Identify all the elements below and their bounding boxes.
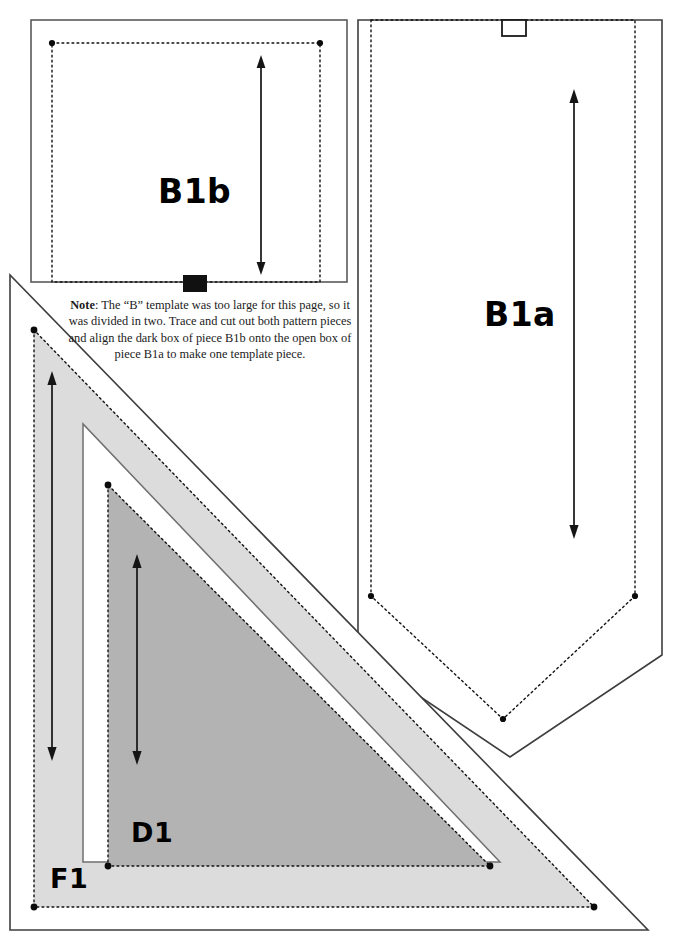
b1b-dark-alignment-box bbox=[183, 275, 207, 292]
piece-b1b-group bbox=[31, 20, 347, 292]
b1a-open-alignment-box bbox=[502, 20, 526, 36]
d1-corner-dot-bottom-left bbox=[105, 863, 112, 870]
b1b-cut-line bbox=[31, 20, 347, 282]
f1-corner-dot-bottom-right bbox=[591, 904, 598, 911]
b1a-cut-line bbox=[358, 20, 662, 757]
d1-corner-dot-bottom-right bbox=[487, 863, 494, 870]
pattern-geometry-layer bbox=[0, 0, 673, 941]
b1a-corner-dot-right bbox=[632, 593, 638, 599]
note-lead-word: Note bbox=[70, 298, 95, 312]
b1b-corner-dot-left bbox=[49, 40, 55, 46]
b1a-corner-dot-left bbox=[368, 593, 374, 599]
template-note: Note: The “B” template was too large for… bbox=[62, 297, 358, 362]
b1b-corner-dot-right bbox=[317, 40, 323, 46]
piece-label-b1b: B1b bbox=[158, 172, 231, 211]
note-body-text: The “B” template was too large for this … bbox=[69, 298, 352, 361]
piece-label-f1: F1 bbox=[50, 863, 88, 894]
b1a-corner-dot-point bbox=[500, 716, 506, 722]
piece-b1a-group bbox=[358, 20, 662, 757]
piece-label-b1a: B1a bbox=[484, 295, 556, 334]
f1-corner-dot-bottom-left bbox=[31, 904, 38, 911]
piece-label-d1: D1 bbox=[131, 817, 173, 848]
f1-corner-dot-apex bbox=[31, 327, 38, 334]
pattern-sheet-page: B1b B1a D1 F1 Note: The “B” template was… bbox=[0, 0, 673, 941]
d1-corner-dot-apex bbox=[105, 482, 112, 489]
